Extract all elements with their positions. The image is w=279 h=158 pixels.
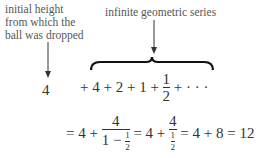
denominator: 2 (125, 143, 130, 152)
series-expression: + 4 + 2 + 1 + 1 2 + · · · (80, 72, 209, 103)
denominator: 2 (171, 143, 176, 152)
half-fraction: 1 2 (163, 72, 171, 103)
eq-part: = 4 + (66, 125, 98, 141)
label-line: ball was dropped (5, 29, 84, 42)
small-fraction: 1 2 (171, 131, 176, 152)
eq-result: = 4 + 8 = 12 (180, 125, 254, 141)
label-line: initial height (5, 3, 84, 16)
sum-expression: = 4 + 4 1 − 1 2 = 4 + 4 1 2 = 4 + 8 = 12 (66, 114, 254, 152)
den-part: 1 − (102, 132, 122, 148)
eq-part: = 4 + (133, 125, 165, 141)
initial-height-label: initial height from which the ball was d… (5, 3, 84, 42)
geometric-series-label: infinite geometric series (105, 6, 216, 19)
label-line: from which the (5, 16, 84, 29)
numerator: 1 (125, 131, 130, 140)
numerator: 4 (102, 114, 130, 128)
numerator: 1 (163, 72, 171, 86)
series-terms: + 4 + 2 + 1 + (80, 79, 159, 95)
numerator: 1 (171, 131, 176, 140)
denominator: 1 2 (169, 131, 177, 152)
fraction-2: 4 1 2 (169, 114, 177, 152)
arrow-down-icon (150, 20, 158, 56)
arrow-down-icon (44, 42, 52, 78)
ellipsis: + · · · (174, 79, 209, 95)
small-fraction: 1 2 (125, 131, 130, 152)
denominator: 2 (163, 89, 171, 103)
first-term: 4 (42, 82, 50, 99)
brace-icon (90, 56, 215, 72)
fraction-1: 4 1 − 1 2 (102, 114, 130, 152)
denominator: 1 − 1 2 (102, 131, 130, 152)
numerator: 4 (169, 114, 177, 128)
